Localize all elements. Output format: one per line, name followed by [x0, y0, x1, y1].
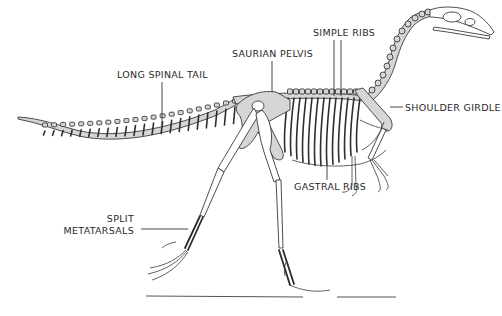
neural-spine: [324, 89, 329, 94]
cervical-vertebra: [405, 21, 411, 27]
haemal-spine: [179, 119, 181, 132]
neural-spine: [151, 115, 156, 119]
neural-spine: [312, 89, 317, 94]
cervical-vertebra: [419, 11, 425, 17]
neural-spine: [88, 121, 93, 125]
rib: [345, 98, 348, 159]
neural-spine: [61, 122, 66, 126]
haemal-spine: [188, 117, 190, 131]
neural-spine: [223, 101, 228, 105]
haemal-spine: [44, 131, 46, 135]
label-simple-ribs: SIMPLE RIBS: [313, 27, 375, 96]
neural-spine: [160, 114, 165, 118]
neural-spine: [288, 89, 293, 94]
haemal-spine: [53, 131, 55, 136]
skeleton-diagram: LONG SPINAL TAIL SAURIAN PELVIS SIMPLE R…: [0, 0, 502, 316]
label-saurian-pelvis: SAURIAN PELVIS: [232, 48, 313, 92]
svg-text:SHOULDER GIRDLE: SHOULDER GIRDLE: [405, 102, 501, 113]
rib: [297, 98, 300, 159]
neural-spine: [79, 122, 84, 126]
cervical-vertebra: [384, 63, 390, 69]
neural-spine: [342, 89, 347, 94]
neural-spine: [318, 89, 323, 94]
rib: [309, 98, 312, 164]
neural-spine: [106, 120, 111, 124]
cervical-vertebra: [399, 28, 405, 34]
svg-text:GASTRAL RIBS: GASTRAL RIBS: [294, 181, 366, 192]
cervical-vertebra: [412, 15, 418, 21]
rib: [351, 98, 354, 156]
haemal-spine: [234, 107, 236, 124]
hindlimb-right: [256, 110, 330, 291]
cervical-vertebra: [387, 54, 393, 60]
rib: [357, 98, 360, 152]
rib: [303, 98, 306, 162]
cervical-vertebra: [375, 80, 381, 86]
svg-text:SPLIT: SPLIT: [107, 213, 134, 224]
ground-line: [146, 296, 396, 297]
neural-spine: [133, 118, 138, 122]
neural-spine: [348, 89, 353, 94]
neural-spine: [214, 103, 219, 107]
neural-spine: [187, 109, 192, 113]
skull: [430, 7, 494, 39]
neural-spine: [336, 89, 341, 94]
neural-spine: [142, 116, 147, 120]
rib: [327, 98, 330, 166]
neural-spine: [294, 89, 299, 94]
tail-vertebrae: [18, 99, 238, 139]
label-shoulder-girdle: SHOULDER GIRDLE: [390, 102, 501, 113]
cervical-vertebra: [390, 45, 396, 51]
neural-spine: [52, 123, 57, 127]
ribs: [285, 98, 360, 166]
svg-text:LONG SPINAL TAIL: LONG SPINAL TAIL: [117, 69, 208, 80]
neural-spine: [300, 89, 305, 94]
svg-text:SIMPLE RIBS: SIMPLE RIBS: [313, 27, 375, 38]
rib: [333, 98, 336, 164]
cervical-vertebra: [369, 87, 375, 93]
neural-spine: [97, 121, 102, 125]
neural-spine: [124, 119, 129, 123]
neural-spine: [178, 111, 183, 115]
neural-spine: [205, 105, 210, 109]
rib: [315, 98, 318, 166]
neural-spine: [196, 107, 201, 111]
neck-vertebrae: [362, 9, 436, 104]
rib: [291, 98, 294, 156]
neural-spine: [43, 123, 48, 127]
cervical-vertebra: [380, 72, 386, 78]
neural-spine: [115, 119, 120, 123]
neural-spine: [169, 112, 174, 116]
neural-spine: [70, 122, 75, 126]
label-split-metatarsals: SPLIT METATARSALS: [63, 213, 188, 236]
svg-text:SAURIAN PELVIS: SAURIAN PELVIS: [232, 48, 313, 59]
neural-spine: [306, 89, 311, 94]
svg-text:METATARSALS: METATARSALS: [63, 225, 134, 236]
hindlimb-left: [148, 108, 258, 280]
rib: [339, 98, 342, 162]
rib: [321, 98, 324, 166]
cervical-vertebra: [394, 36, 400, 42]
